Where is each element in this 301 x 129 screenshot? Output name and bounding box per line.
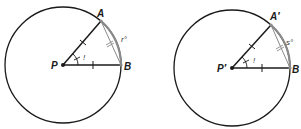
- label-arc-s: s°: [286, 38, 294, 47]
- point-b: [119, 63, 122, 66]
- label-p: P: [51, 60, 58, 71]
- label-angle: !: [83, 53, 86, 62]
- right-figure: P′ A′ B s° !: [174, 10, 299, 126]
- label-a-prime: A′: [269, 11, 280, 22]
- label-b: B: [292, 64, 299, 75]
- radius-pa: [63, 21, 101, 65]
- label-a: A: [96, 8, 104, 19]
- label-b: B: [124, 61, 131, 72]
- point-a-prime: [269, 23, 272, 26]
- chord-ab: [101, 21, 121, 65]
- point-a: [99, 19, 102, 22]
- point-p: [61, 63, 65, 67]
- label-p-prime: P′: [217, 63, 227, 74]
- label-angle: !: [253, 56, 256, 65]
- label-arc-r: r°: [121, 35, 128, 44]
- left-figure: P A B r° !: [5, 7, 131, 123]
- point-p-prime: [230, 66, 234, 70]
- congruent-circles-diagram: P A B r° ! P′ A′ B s° !: [0, 0, 301, 129]
